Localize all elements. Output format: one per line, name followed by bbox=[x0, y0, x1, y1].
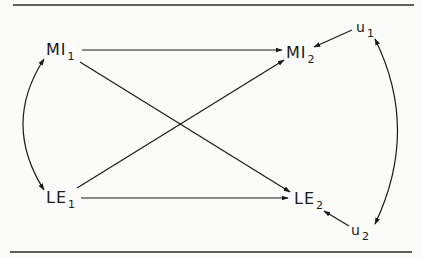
node-u1-base: u bbox=[356, 19, 366, 35]
node-u1-subscript: 1 bbox=[367, 27, 374, 40]
node-le2: LE2 bbox=[294, 191, 323, 207]
node-le2-subscript: 2 bbox=[316, 199, 323, 212]
diagram-canvas: MI1 MI2 LE1 LE2 u1 u2 bbox=[0, 0, 422, 258]
edge-mi1-le1-correlation bbox=[23, 59, 44, 190]
node-u2-subscript: 2 bbox=[362, 230, 369, 243]
node-mi1-base: MI bbox=[46, 40, 67, 59]
node-mi2-base: MI bbox=[286, 43, 307, 62]
edge-u1-mi2 bbox=[314, 30, 352, 47]
node-mi1-subscript: 1 bbox=[68, 50, 75, 63]
node-le1-base: LE bbox=[46, 188, 67, 207]
node-mi2: MI2 bbox=[286, 45, 315, 61]
node-le2-base: LE bbox=[294, 189, 315, 208]
node-mi1: MI1 bbox=[46, 42, 75, 58]
node-u2: u2 bbox=[351, 223, 369, 237]
node-u1: u1 bbox=[356, 20, 374, 34]
edge-mi1-le2 bbox=[80, 62, 290, 192]
node-mi2-subscript: 2 bbox=[308, 53, 315, 66]
node-le1-subscript: 1 bbox=[68, 198, 75, 211]
node-le1: LE1 bbox=[46, 190, 75, 206]
edge-u1-u2-correlation bbox=[375, 39, 398, 224]
edge-u2-le2 bbox=[324, 211, 349, 226]
path-diagram bbox=[0, 0, 422, 258]
node-u2-base: u bbox=[351, 222, 361, 238]
